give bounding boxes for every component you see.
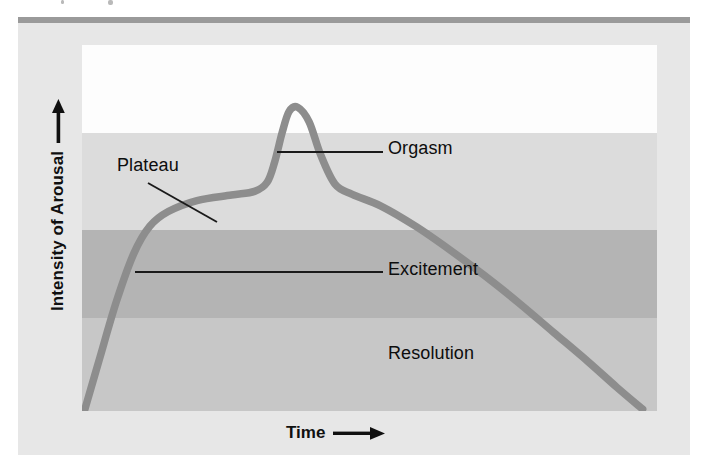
y-axis-label-text: Intensity of Arousal: [48, 151, 68, 311]
response-curve-svg: [82, 45, 657, 411]
annotation-label-excitement: Excitement: [388, 259, 478, 280]
annotation-label-orgasm: Orgasm: [388, 138, 453, 159]
x-axis-label-text: Time: [286, 423, 325, 443]
arrow-right-icon: [333, 427, 385, 440]
response-curve-path: [85, 107, 643, 410]
annotation-label-resolution: Resolution: [388, 343, 474, 364]
annotation-label-plateau: Plateau: [117, 155, 179, 176]
clipped-text-fragment: [108, 0, 113, 5]
arrow-up-icon: [52, 99, 65, 143]
figure-root: Intensity of Arousal Time: [0, 0, 702, 474]
y-axis-label: Intensity of Arousal: [48, 85, 68, 325]
clipped-text-fragment: [61, 0, 64, 4]
panel-top-rule: [18, 17, 690, 23]
x-axis-label: Time: [286, 423, 385, 443]
plot-area: [82, 45, 657, 411]
